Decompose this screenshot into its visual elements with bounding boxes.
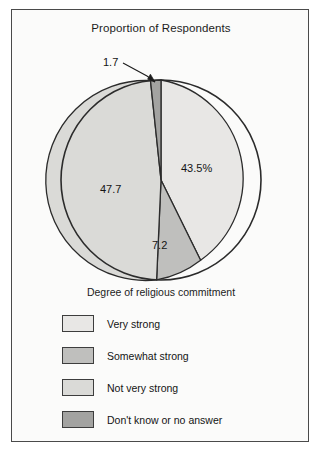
pie-slice-not-very-strong <box>46 80 161 280</box>
legend-swatch-dont-know <box>62 411 94 428</box>
pie-label-not-very-strong: 47.7 <box>100 183 121 195</box>
axis-caption: Degree of religious commitment <box>0 286 322 298</box>
pie-label-dont-know: 1.7 <box>103 56 118 68</box>
legend-swatch-somewhat-strong <box>62 347 94 364</box>
legend-item-dont-know: Don't know or no answer <box>62 409 292 430</box>
legend-label-dont-know: Don't know or no answer <box>107 414 222 426</box>
legend-label-not-very-strong: Not very strong <box>107 382 178 394</box>
legend-item-not-very-strong: Not very strong <box>62 377 292 398</box>
legend: Very strong Somewhat strong Not very str… <box>62 313 292 441</box>
legend-item-very-strong: Very strong <box>62 313 292 334</box>
pie-label-somewhat-strong: 7.2 <box>152 239 167 251</box>
legend-item-somewhat-strong: Somewhat strong <box>62 345 292 366</box>
legend-swatch-not-very-strong <box>62 379 94 396</box>
legend-swatch-very-strong <box>62 315 94 332</box>
figure-container: Proportion of Respondents 43.5% 47.7 7.2… <box>0 0 322 456</box>
legend-label-somewhat-strong: Somewhat strong <box>107 350 189 362</box>
pie-label-very-strong: 43.5% <box>181 162 212 174</box>
legend-label-very-strong: Very strong <box>107 318 160 330</box>
